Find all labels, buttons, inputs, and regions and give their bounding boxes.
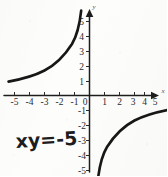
x-tick-label: -4 bbox=[26, 97, 34, 107]
x-tick-label: -5 bbox=[11, 97, 19, 107]
x-tick-label: 3 bbox=[131, 97, 136, 107]
x-tick-label: 1 bbox=[102, 97, 107, 107]
y-tick-label: -1 bbox=[78, 106, 86, 116]
curve-branch-quadrant-IV bbox=[98, 109, 167, 176]
curve-branch-quadrant-II bbox=[9, 11, 82, 82]
y-tick-label: -5 bbox=[78, 166, 86, 176]
x-tick-label: -3 bbox=[41, 97, 49, 107]
x-tick-label: -2 bbox=[56, 97, 64, 107]
y-tick-label: 1 bbox=[79, 77, 84, 87]
y-tick-label: 2 bbox=[79, 62, 84, 72]
x-tick-label: 5 bbox=[153, 97, 158, 107]
y-tick-label: -4 bbox=[78, 151, 86, 161]
hyperbola-curves bbox=[9, 11, 168, 177]
handwritten-equation: xy=-5 bbox=[15, 127, 78, 152]
y-tick-label: -3 bbox=[78, 136, 86, 146]
y-tick-label: 4 bbox=[79, 32, 84, 42]
y-tick-label: -2 bbox=[78, 121, 86, 131]
coordinate-plane: -5 -4 -3 -2 -1 0 1 2 3 4 5 5 4 3 2 1 -1 … bbox=[0, 0, 167, 176]
x-tick-label: 4 bbox=[142, 97, 147, 107]
y-axis-label: y bbox=[91, 3, 96, 11]
x-axis-label: x bbox=[160, 87, 165, 95]
x-tick-label: 2 bbox=[117, 97, 122, 107]
graph-figure: -5 -4 -3 -2 -1 0 1 2 3 4 5 5 4 3 2 1 -1 … bbox=[0, 0, 167, 176]
y-tick-label: 3 bbox=[79, 47, 84, 57]
equation-text: xy=-5 bbox=[15, 127, 78, 152]
